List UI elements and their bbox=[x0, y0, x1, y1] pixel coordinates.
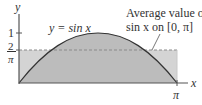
fraction-bar bbox=[7, 51, 16, 52]
x-axis-label: x bbox=[191, 77, 196, 89]
y-tick-1-label: 1 bbox=[8, 27, 14, 39]
y-axis-label: y bbox=[15, 1, 20, 13]
y-tick-avg-denominator: π bbox=[8, 53, 14, 65]
annotation-line-2: sin x on [0, π] bbox=[126, 21, 193, 33]
annotation-leader bbox=[152, 34, 160, 50]
curve-label: y = sin x bbox=[49, 22, 91, 34]
annotation-line-1: Average value of bbox=[126, 7, 202, 19]
x-tick-pi-label: π bbox=[173, 89, 179, 101]
